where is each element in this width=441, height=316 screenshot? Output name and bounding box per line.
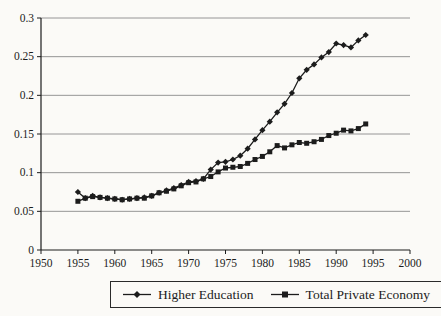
legend-item-higher-education: Higher Education (122, 287, 254, 303)
svg-text:1990: 1990 (325, 257, 348, 269)
legend-label-total-private-economy: Total Private Economy (306, 287, 430, 303)
svg-text:0.05: 0.05 (14, 205, 34, 217)
svg-text:1970: 1970 (177, 257, 200, 269)
svg-text:1995: 1995 (362, 257, 385, 269)
svg-text:0.25: 0.25 (14, 50, 34, 62)
svg-text:1980: 1980 (251, 257, 274, 269)
svg-text:1965: 1965 (140, 257, 163, 269)
line-chart-canvas: 00.050.10.150.20.250.3195019551960196519… (0, 0, 441, 278)
svg-text:0.3: 0.3 (20, 12, 35, 24)
line-chart-figure: 00.050.10.150.20.250.3195019551960196519… (0, 0, 441, 316)
square-marker-icon (270, 289, 300, 300)
diamond-marker-icon (122, 289, 152, 300)
svg-text:1960: 1960 (103, 257, 126, 269)
svg-text:2000: 2000 (399, 257, 422, 269)
svg-text:0.1: 0.1 (20, 166, 35, 178)
svg-text:0.15: 0.15 (14, 128, 34, 140)
legend-item-total-private-economy: Total Private Economy (270, 287, 430, 303)
legend-label-higher-education: Higher Education (158, 287, 254, 303)
svg-text:1950: 1950 (30, 257, 53, 269)
svg-text:1955: 1955 (66, 257, 89, 269)
chart-legend: Higher Education Total Private Economy (110, 281, 441, 308)
svg-text:1985: 1985 (288, 257, 311, 269)
svg-text:0.2: 0.2 (20, 89, 35, 101)
series-higher-education (75, 32, 369, 203)
svg-text:1975: 1975 (214, 257, 237, 269)
svg-text:0: 0 (28, 244, 34, 256)
